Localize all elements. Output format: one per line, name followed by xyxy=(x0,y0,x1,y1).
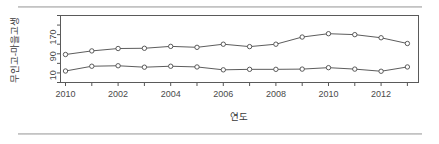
data-point-marker xyxy=(405,41,409,45)
y-tick-label: 170 xyxy=(48,30,58,45)
data-series-lower xyxy=(63,64,409,74)
data-series-group xyxy=(63,31,409,73)
data-point-marker xyxy=(353,32,357,36)
data-point-marker xyxy=(169,64,173,68)
line-chart-plot: 1090170 2010200220042006200820102012 연도 … xyxy=(0,0,439,144)
y-axis-title: 무인고-마을고생 xyxy=(9,17,20,83)
chart-figure: 1090170 2010200220042006200820102012 연도 … xyxy=(0,0,439,144)
y-axis-tick-labels: 1090170 xyxy=(48,30,58,81)
data-point-marker xyxy=(116,46,120,50)
data-point-marker xyxy=(379,36,383,40)
data-point-marker xyxy=(142,65,146,69)
y-tick-label: 90 xyxy=(48,51,58,61)
data-point-marker xyxy=(221,42,225,46)
x-tick-label: 2008 xyxy=(266,89,286,99)
x-tick-label: 2010 xyxy=(318,89,338,99)
data-point-marker xyxy=(169,44,173,48)
x-axis: 2010200220042006200820102012 xyxy=(55,83,418,99)
data-point-marker xyxy=(405,65,409,69)
data-point-marker xyxy=(221,68,225,72)
data-point-marker xyxy=(90,49,94,53)
x-tick-label: 2004 xyxy=(161,89,181,99)
data-point-marker xyxy=(274,42,278,46)
data-point-marker xyxy=(63,69,67,73)
data-point-marker xyxy=(90,64,94,68)
x-tick-label: 2002 xyxy=(108,89,128,99)
y-axis: 1090170 xyxy=(48,15,61,83)
data-point-marker xyxy=(353,67,357,71)
y-tick-label: 10 xyxy=(48,70,58,80)
x-axis-ticks xyxy=(66,83,408,87)
x-axis-title: 연도 xyxy=(230,111,248,122)
divider-bottom xyxy=(18,133,422,135)
x-tick-label: 2010 xyxy=(55,89,75,99)
data-point-marker xyxy=(247,44,251,48)
divider-top xyxy=(18,6,422,8)
data-point-marker xyxy=(379,69,383,73)
x-tick-label: 2012 xyxy=(371,89,391,99)
data-point-marker xyxy=(326,65,330,69)
data-point-marker xyxy=(247,67,251,71)
data-point-marker xyxy=(326,31,330,35)
x-axis-tick-labels: 2010200220042006200820102012 xyxy=(55,89,391,99)
data-point-marker xyxy=(300,35,304,39)
data-point-marker xyxy=(274,67,278,71)
data-series-upper xyxy=(63,31,409,56)
data-point-marker xyxy=(142,46,146,50)
data-point-marker xyxy=(116,64,120,68)
data-point-marker xyxy=(195,45,199,49)
data-point-marker xyxy=(300,67,304,71)
data-point-marker xyxy=(195,65,199,69)
data-point-marker xyxy=(63,52,67,56)
x-tick-label: 2006 xyxy=(213,89,233,99)
